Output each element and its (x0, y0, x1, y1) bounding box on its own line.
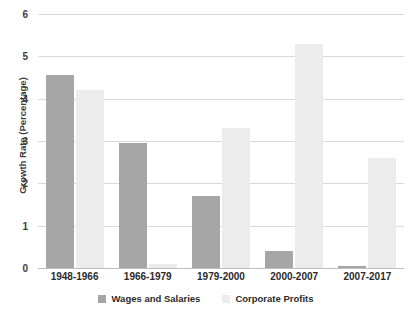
y-axis-tick-4: 4 (22, 93, 28, 104)
bar-1948-1966-wages[interactable] (46, 75, 74, 268)
bar-2000-2007-wages[interactable] (265, 251, 293, 268)
y-axis-tick-1: 1 (22, 220, 28, 231)
x-axis-label-1966-1979: 1966-1979 (111, 271, 184, 282)
bar-2007-2017-profits[interactable] (368, 158, 396, 268)
x-axis-label-1948-1966: 1948-1966 (38, 271, 111, 282)
bar-1979-2000-wages[interactable] (192, 196, 220, 268)
bar-1979-2000-profits[interactable] (222, 128, 250, 268)
legend-item-wages-and-salaries[interactable]: Wages and Salaries (98, 293, 200, 304)
x-axis-label-2000-2007: 2000-2007 (258, 271, 331, 282)
legend-label-wages: Wages and Salaries (111, 293, 200, 304)
bar-chart: Growth Rate (Percentage) 0123456 1948-19… (0, 0, 412, 314)
y-axis-tick-3: 3 (22, 136, 28, 147)
bars-layer (38, 14, 404, 268)
legend-swatch-icon-profits (222, 295, 230, 303)
y-axis-tick-0: 0 (22, 263, 28, 274)
x-axis-label-1979-2000: 1979-2000 (184, 271, 257, 282)
legend: Wages and Salaries Corporate Profits (0, 293, 412, 304)
y-axis-tick-2: 2 (22, 178, 28, 189)
gridline-0 (38, 268, 404, 269)
x-axis-category-labels: 1948-19661966-19791979-20002000-20072007… (38, 271, 404, 291)
bar-1966-1979-wages[interactable] (119, 143, 147, 268)
x-axis-label-2007-2017: 2007-2017 (331, 271, 404, 282)
legend-swatch-icon-wages (98, 295, 106, 303)
bar-1948-1966-profits[interactable] (76, 90, 104, 268)
legend-item-corporate-profits[interactable]: Corporate Profits (222, 293, 313, 304)
bar-2007-2017-wages[interactable] (338, 266, 366, 268)
bar-2000-2007-profits[interactable] (295, 44, 323, 268)
y-axis-tick-6: 6 (22, 9, 28, 20)
y-axis-tick-labels: 0123456 (0, 14, 34, 268)
y-axis-tick-5: 5 (22, 51, 28, 62)
bar-1966-1979-profits[interactable] (149, 264, 177, 268)
plot-area (38, 14, 404, 268)
legend-label-profits: Corporate Profits (235, 293, 313, 304)
